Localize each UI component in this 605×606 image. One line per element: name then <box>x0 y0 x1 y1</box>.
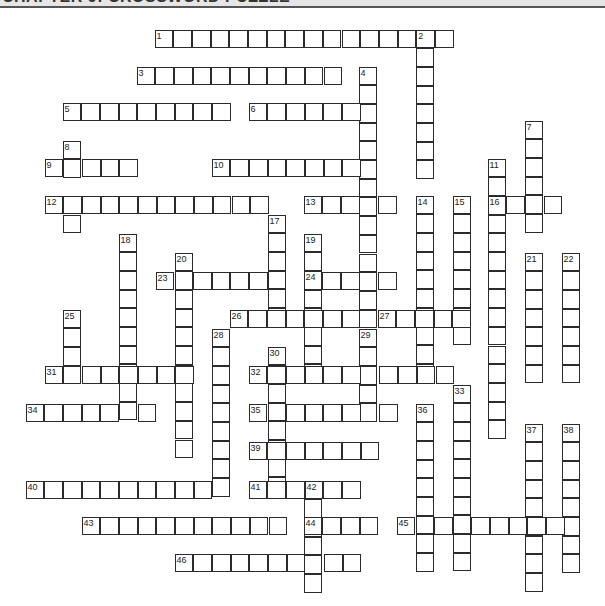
crossword-cell[interactable]: 31 <box>45 366 64 385</box>
crossword-cell[interactable] <box>286 159 305 178</box>
crossword-cell[interactable]: 2 <box>416 30 435 49</box>
crossword-cell[interactable] <box>562 498 581 517</box>
crossword-cell[interactable] <box>453 233 472 252</box>
crossword-cell[interactable] <box>119 517 138 536</box>
crossword-cell[interactable] <box>138 481 157 500</box>
crossword-cell[interactable] <box>453 515 472 534</box>
crossword-cell[interactable] <box>398 366 417 385</box>
crossword-cell[interactable] <box>119 366 138 385</box>
crossword-cell[interactable] <box>155 67 174 86</box>
crossword-cell[interactable] <box>285 30 304 49</box>
crossword-cell[interactable] <box>525 327 544 346</box>
crossword-cell[interactable] <box>488 289 507 308</box>
crossword-cell[interactable] <box>359 216 378 235</box>
crossword-cell[interactable] <box>453 534 472 553</box>
crossword-cell[interactable]: 8 <box>63 141 82 160</box>
crossword-cell[interactable] <box>359 123 378 142</box>
crossword-cell[interactable] <box>194 517 213 536</box>
crossword-cell[interactable] <box>63 196 82 215</box>
crossword-cell[interactable] <box>434 310 453 329</box>
crossword-cell[interactable] <box>416 48 435 67</box>
crossword-cell[interactable] <box>453 214 472 233</box>
crossword-cell[interactable] <box>488 233 507 252</box>
crossword-cell[interactable] <box>267 30 286 49</box>
crossword-cell[interactable] <box>453 252 472 271</box>
crossword-cell[interactable] <box>212 385 231 404</box>
crossword-cell[interactable] <box>398 30 417 49</box>
crossword-cell[interactable]: 45 <box>397 517 416 536</box>
crossword-cell[interactable] <box>82 196 101 215</box>
crossword-cell[interactable] <box>304 290 323 309</box>
crossword-cell[interactable]: 36 <box>416 404 435 423</box>
crossword-cell[interactable] <box>119 346 138 365</box>
crossword-cell[interactable] <box>359 385 378 404</box>
crossword-cell[interactable] <box>100 517 119 536</box>
crossword-cell[interactable] <box>63 215 82 234</box>
crossword-cell[interactable] <box>286 310 305 329</box>
crossword-cell[interactable] <box>63 159 82 178</box>
crossword-cell[interactable] <box>82 159 101 178</box>
crossword-cell[interactable] <box>82 481 101 500</box>
crossword-cell[interactable]: 35 <box>249 404 268 423</box>
crossword-cell[interactable] <box>193 554 212 573</box>
crossword-cell[interactable]: 32 <box>249 366 268 385</box>
crossword-cell[interactable] <box>562 365 581 384</box>
crossword-cell[interactable] <box>101 159 120 178</box>
crossword-cell[interactable] <box>231 554 250 573</box>
crossword-cell[interactable] <box>453 497 472 516</box>
crossword-cell[interactable] <box>250 517 269 536</box>
crossword-cell[interactable] <box>304 30 323 49</box>
crossword-cell[interactable] <box>286 442 305 461</box>
crossword-cell[interactable] <box>175 196 194 215</box>
crossword-cell[interactable]: 22 <box>562 253 581 272</box>
crossword-cell[interactable]: 28 <box>212 329 231 348</box>
crossword-cell[interactable] <box>416 104 435 123</box>
crossword-cell[interactable]: 21 <box>525 253 544 272</box>
crossword-cell[interactable]: 37 <box>525 424 544 443</box>
crossword-cell[interactable] <box>304 346 323 365</box>
crossword-cell[interactable] <box>488 327 507 346</box>
crossword-cell[interactable] <box>119 103 138 122</box>
crossword-cell[interactable] <box>436 366 455 385</box>
crossword-cell[interactable]: 46 <box>175 554 194 573</box>
crossword-cell[interactable]: 16 <box>488 196 507 215</box>
crossword-cell[interactable]: 23 <box>156 272 175 291</box>
crossword-cell[interactable] <box>490 517 509 536</box>
crossword-cell[interactable] <box>305 159 324 178</box>
crossword-cell[interactable] <box>232 196 251 215</box>
crossword-cell[interactable] <box>359 403 378 422</box>
crossword-cell[interactable] <box>506 196 525 215</box>
crossword-cell[interactable] <box>323 103 342 122</box>
crossword-cell[interactable] <box>416 86 435 105</box>
crossword-cell[interactable]: 13 <box>304 196 323 215</box>
crossword-cell[interactable] <box>562 327 581 346</box>
crossword-cell[interactable] <box>100 481 119 500</box>
crossword-cell[interactable] <box>44 481 63 500</box>
crossword-cell[interactable] <box>323 366 342 385</box>
crossword-cell[interactable] <box>156 481 175 500</box>
crossword-cell[interactable]: 33 <box>453 385 472 404</box>
crossword-cell[interactable] <box>231 517 250 536</box>
crossword-cell[interactable] <box>119 252 138 271</box>
crossword-cell[interactable] <box>156 103 175 122</box>
crossword-cell[interactable] <box>304 310 323 329</box>
crossword-cell[interactable] <box>525 442 544 461</box>
crossword-cell[interactable]: 41 <box>249 481 268 500</box>
crossword-cell[interactable] <box>359 104 378 123</box>
crossword-cell[interactable] <box>213 196 232 215</box>
crossword-cell[interactable] <box>248 30 267 49</box>
crossword-cell[interactable] <box>212 554 231 573</box>
crossword-cell[interactable]: 25 <box>63 310 82 329</box>
crossword-cell[interactable] <box>119 196 138 215</box>
crossword-cell[interactable] <box>212 459 231 478</box>
crossword-cell[interactable] <box>63 347 82 366</box>
crossword-cell[interactable] <box>416 233 435 252</box>
crossword-cell[interactable] <box>230 159 249 178</box>
crossword-cell[interactable] <box>175 440 194 459</box>
crossword-cell[interactable] <box>525 573 544 592</box>
crossword-cell[interactable] <box>138 366 157 385</box>
crossword-cell[interactable] <box>416 460 435 479</box>
crossword-cell[interactable] <box>341 517 360 536</box>
crossword-cell[interactable] <box>525 536 544 555</box>
crossword-cell[interactable] <box>82 366 101 385</box>
